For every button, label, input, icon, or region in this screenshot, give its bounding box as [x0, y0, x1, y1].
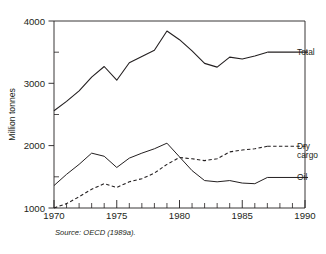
y-tick-label-2000: 2000 [24, 140, 45, 151]
line-chart: 4000 3000 2000 1000 Million tonnes [0, 0, 326, 254]
series-labels: Total Dry cargo Oil [297, 47, 318, 182]
x-tick-label-1980: 1980 [169, 210, 190, 221]
y-axis-title: Million tonnes [7, 88, 17, 141]
y-axis-ticks [49, 21, 55, 208]
figure-container: Figure 1. Development of world seaborne … [0, 0, 326, 254]
y-tick-label-4000: 4000 [24, 16, 45, 27]
x-tick-label-1985: 1985 [232, 210, 253, 221]
series-label-oil: Oil [297, 172, 307, 182]
x-tick-label-1975: 1975 [106, 210, 127, 221]
series-line-total [54, 31, 267, 111]
x-tick-label-1970: 1970 [43, 210, 64, 221]
series-label-dry-cargo-line2: cargo [297, 150, 318, 160]
x-axis-labels: 1970 1975 1980 1985 1990 [43, 210, 315, 221]
series-label-total: Total [297, 47, 315, 57]
source-note: Source: OECD (1989a). [55, 228, 136, 237]
x-tick-label-1990: 1990 [294, 210, 315, 221]
y-tick-label-1000: 1000 [24, 203, 45, 214]
series-line-oil [54, 143, 267, 185]
y-axis-minor-ticks [54, 52, 59, 177]
y-tick-label-3000: 3000 [24, 78, 45, 89]
series-lines [54, 31, 267, 208]
series-line-dry-cargo [54, 146, 267, 208]
y-axis-labels: 4000 3000 2000 1000 [24, 16, 45, 214]
plot-frame [54, 21, 305, 208]
